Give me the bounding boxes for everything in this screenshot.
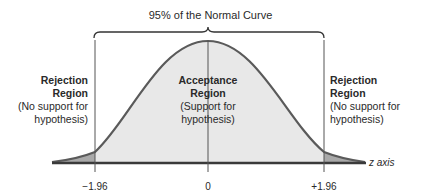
right-rejection-label: Rejection Region (No support for hypothe…: [330, 74, 420, 126]
right-note-1: (No support for: [330, 100, 420, 113]
left-note-2: hypothesis): [2, 113, 88, 126]
left-rejection-label: Rejection Region (No support for hypothe…: [2, 74, 88, 126]
tick-pos-1-96: +1.96: [311, 181, 336, 192]
left-note-1: (No support for: [2, 100, 88, 113]
acceptance-label: Acceptance Region (Support for hypothesi…: [160, 74, 256, 126]
right-note-2: hypothesis): [330, 113, 420, 126]
tick-zero: 0: [205, 181, 211, 192]
right-heading-1: Rejection: [330, 74, 420, 87]
tick-neg-1-96: −1.96: [82, 181, 107, 192]
center-note-2: hypothesis): [160, 113, 256, 126]
diagram-title: 95% of the Normal Curve: [0, 9, 421, 21]
right-heading-2: Region: [330, 87, 420, 100]
z-axis-label: z axis: [369, 157, 395, 168]
center-note-1: (Support for: [160, 100, 256, 113]
left-heading-1: Rejection: [2, 74, 88, 87]
brace-95-percent: [94, 27, 324, 38]
center-heading-1: Acceptance: [160, 74, 256, 87]
left-heading-2: Region: [2, 87, 88, 100]
center-heading-2: Region: [160, 87, 256, 100]
